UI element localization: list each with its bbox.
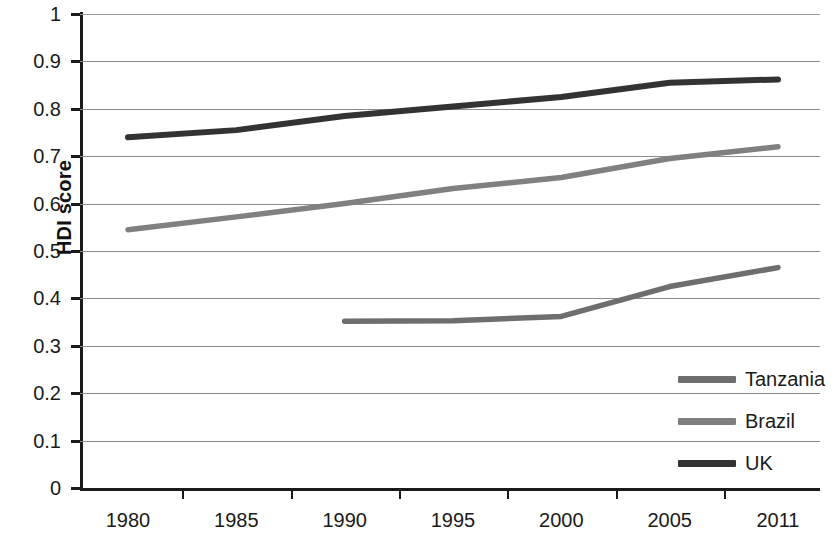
legend-swatch-icon: [678, 460, 736, 467]
y-tick-label: 0.2: [1, 382, 61, 405]
y-tick-label: 0.1: [1, 429, 61, 452]
y-tick-label: 0.5: [1, 240, 61, 263]
x-tick-mark: [507, 488, 509, 499]
x-tick-label: 1990: [300, 509, 390, 532]
y-tick-mark: [71, 440, 80, 443]
x-tick-mark: [616, 488, 618, 499]
y-tick-mark: [71, 250, 80, 253]
x-tick-label: 2011: [733, 509, 823, 532]
legend-label: Brazil: [745, 410, 795, 433]
hdi-line-chart: HDI score 10.90.80.70.60.50.40.30.20.10 …: [0, 0, 838, 547]
legend-swatch-icon: [678, 376, 736, 383]
legend-swatch-icon: [678, 418, 736, 425]
y-tick-label: 1: [1, 3, 61, 26]
y-tick-label: 0.9: [1, 50, 61, 73]
x-tick-label: 2005: [625, 509, 715, 532]
x-tick-mark: [399, 488, 401, 499]
y-tick-mark: [71, 487, 80, 490]
x-tick-label: 1980: [83, 509, 173, 532]
y-tick-mark: [71, 345, 80, 348]
y-tick-mark: [71, 155, 80, 158]
y-tick-label: 0.7: [1, 145, 61, 168]
y-tick-mark: [71, 60, 80, 63]
legend: TanzaniaBrazilUK: [678, 358, 825, 484]
y-tick-label: 0: [1, 477, 61, 500]
series-line-tanzania: [345, 268, 778, 322]
legend-item-uk[interactable]: UK: [678, 442, 825, 484]
x-tick-mark: [182, 488, 184, 499]
legend-label: Tanzania: [745, 368, 825, 391]
series-line-uk: [128, 79, 778, 137]
x-tick-mark: [724, 488, 726, 499]
legend-label: UK: [745, 452, 773, 475]
series-line-brazil: [128, 147, 778, 230]
legend-item-brazil[interactable]: Brazil: [678, 400, 825, 442]
y-tick-label: 0.8: [1, 97, 61, 120]
legend-item-tanzania[interactable]: Tanzania: [678, 358, 825, 400]
x-tick-mark: [291, 488, 293, 499]
y-tick-mark: [71, 297, 80, 300]
y-tick-label: 0.3: [1, 334, 61, 357]
y-tick-mark: [71, 108, 80, 111]
y-tick-mark: [71, 392, 80, 395]
y-tick-mark: [71, 203, 80, 206]
x-tick-label: 2000: [516, 509, 606, 532]
x-tick-label: 1995: [408, 509, 498, 532]
y-tick-label: 0.6: [1, 192, 61, 215]
y-tick-mark: [71, 13, 80, 16]
y-tick-label: 0.4: [1, 287, 61, 310]
gridline: [80, 488, 820, 491]
x-tick-label: 1985: [191, 509, 281, 532]
